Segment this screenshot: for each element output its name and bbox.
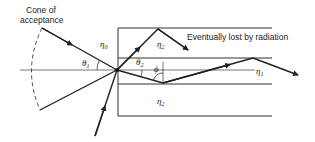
eta0-symbol: η0 bbox=[100, 39, 107, 50]
theta2-arc bbox=[141, 70, 142, 77]
eta1-symbol: η1 bbox=[256, 66, 263, 77]
radiated-ray bbox=[117, 29, 188, 70]
cone-label-line1: Cone of bbox=[26, 5, 56, 15]
eta2-top-symbol: η2 bbox=[157, 39, 164, 50]
theta1-symbol: θ1 bbox=[82, 58, 89, 69]
eta2-bottom-symbol: η2 bbox=[157, 96, 164, 107]
phi-symbol: ϕ bbox=[154, 64, 159, 74]
theta2-symbol: θ2 bbox=[136, 57, 143, 68]
phi-arc bbox=[154, 73, 164, 80]
optical-fiber-diagram: Cone of acceptance Eventually lost by ra… bbox=[0, 0, 315, 142]
entry-point bbox=[115, 68, 119, 72]
radiation-label: Eventually lost by radiation bbox=[187, 32, 288, 42]
incident-ray-upper-arrow bbox=[42, 28, 72, 45]
theta1-arc bbox=[97, 60, 100, 70]
incident-ray-steep-arrow bbox=[95, 106, 105, 136]
acceptance-cone-arc bbox=[31, 28, 42, 110]
cone-label-line2: acceptance bbox=[20, 15, 64, 25]
rays bbox=[40, 28, 298, 136]
guided-ray-arrow1 bbox=[163, 65, 230, 84]
